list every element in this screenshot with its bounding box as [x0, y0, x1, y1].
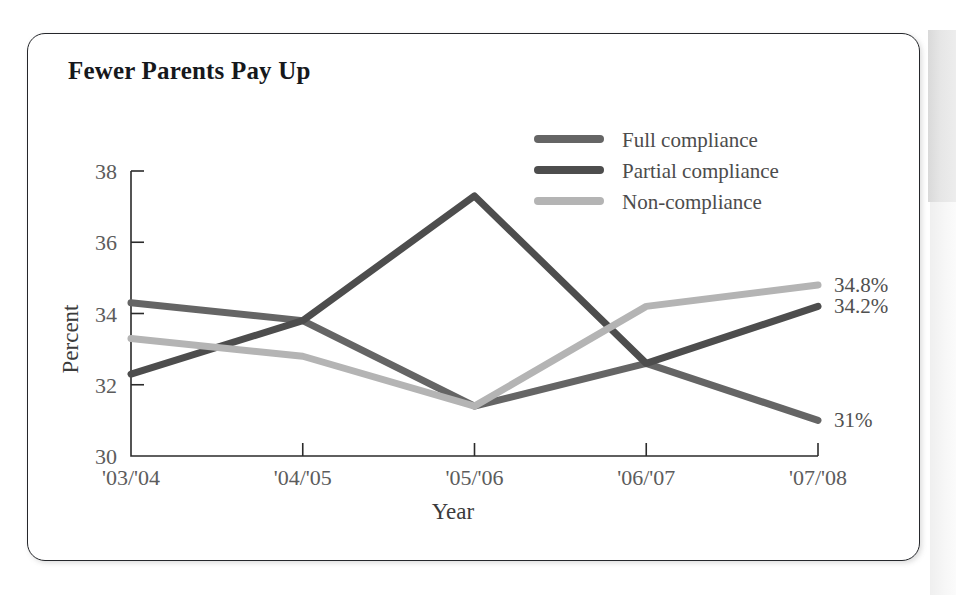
page-edge-strip-lower: [930, 202, 956, 595]
chart-card: Fewer Parents Pay Up Percent Year 303234…: [27, 33, 920, 561]
x-tick-label: '03/'04: [102, 465, 160, 490]
y-tick-label: 32: [95, 373, 117, 398]
chart-page: Fewer Parents Pay Up Percent Year 303234…: [0, 0, 956, 595]
y-tick-label: 36: [95, 230, 117, 255]
line-chart: Percent Year 3032343638 '03/'04'04/'05'0…: [28, 34, 921, 562]
y-axis-title: Percent: [58, 304, 83, 374]
y-axis-ticks: 3032343638: [95, 159, 144, 469]
legend-label-0: Full compliance: [622, 128, 758, 152]
series-end-label-0: 31%: [834, 408, 873, 432]
chart-legend: Full compliancePartial complianceNon-com…: [538, 128, 779, 214]
x-tick-label: '04/'05: [274, 465, 332, 490]
series-end-label-2: 34.8%: [834, 273, 888, 297]
legend-label-1: Partial compliance: [622, 159, 779, 183]
x-tick-label: '06/'07: [617, 465, 675, 490]
series-lines: [131, 196, 818, 420]
y-tick-label: 34: [95, 302, 117, 327]
series-end-label-1: 34.2%: [834, 294, 888, 318]
page-edge-strip: [928, 30, 956, 202]
legend-label-2: Non-compliance: [622, 190, 762, 214]
y-tick-label: 38: [95, 159, 117, 184]
x-axis-ticks: '03/'04'04/'05'05/'06'06/'07'07/'08: [102, 443, 847, 490]
series-end-labels: 31%34.2%34.8%: [834, 273, 888, 432]
x-tick-label: '07/'08: [789, 465, 847, 490]
x-axis-title: Year: [432, 499, 475, 524]
x-tick-label: '05/'06: [445, 465, 503, 490]
